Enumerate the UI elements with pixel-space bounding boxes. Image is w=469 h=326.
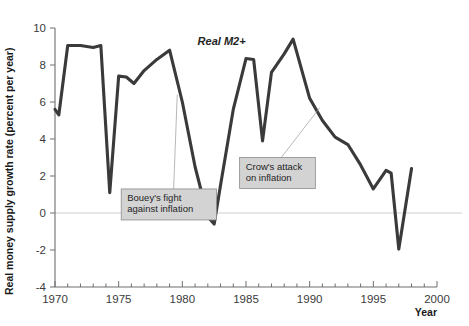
y-tick-label: 4 bbox=[40, 133, 47, 145]
x-tick-label: 1990 bbox=[297, 293, 323, 305]
y-tick-label: -4 bbox=[36, 281, 47, 293]
y-tick-label: 10 bbox=[33, 22, 46, 34]
x-tick-label: 1975 bbox=[106, 293, 132, 305]
annotation-text-crow: on inflation bbox=[246, 172, 292, 183]
chart-container: -4-20246810 1970197519801985199019952000… bbox=[0, 0, 469, 326]
annotation-text-bouey: Bouey's fight bbox=[127, 192, 181, 203]
y-tick-label: 6 bbox=[40, 96, 46, 108]
chart-background bbox=[0, 0, 469, 326]
real-money-supply-growth-chart: -4-20246810 1970197519801985199019952000… bbox=[0, 0, 469, 326]
x-tick-label: 1995 bbox=[361, 293, 387, 305]
x-tick-label: 2000 bbox=[424, 293, 450, 305]
annotation-text-crow: Crow's attack bbox=[246, 161, 303, 172]
y-tick-label: 2 bbox=[40, 170, 46, 182]
annotation-text-bouey: against inflation bbox=[127, 203, 193, 214]
y-axis-title: Real money supply growth rate (percent p… bbox=[3, 48, 15, 295]
x-tick-label: 1985 bbox=[233, 293, 259, 305]
y-tick-label: 8 bbox=[40, 59, 46, 71]
x-tick-label: 1980 bbox=[170, 293, 196, 305]
y-tick-label: -2 bbox=[36, 244, 46, 256]
series-label-real-m2plus: Real M2+ bbox=[198, 35, 247, 47]
x-tick-label: 1970 bbox=[42, 293, 68, 305]
y-tick-label: 0 bbox=[40, 207, 46, 219]
x-axis-title: Year bbox=[415, 306, 437, 318]
